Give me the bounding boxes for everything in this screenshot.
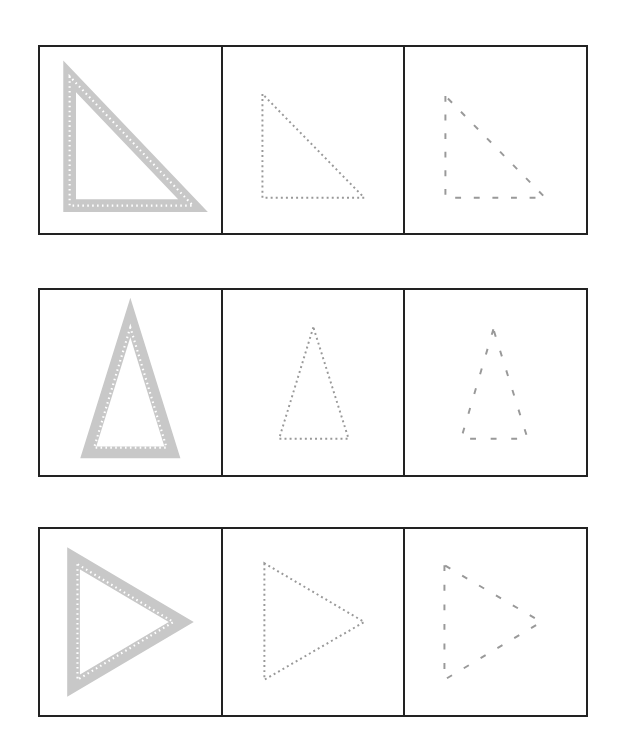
right-pointing-triangle-dashed-icon bbox=[405, 529, 586, 715]
cell-dotted bbox=[223, 47, 406, 233]
isosceles-triangle-dotted-icon bbox=[223, 290, 404, 475]
right-triangle-thick-icon bbox=[40, 47, 221, 233]
right-pointing-triangle-dotted-icon bbox=[223, 529, 404, 715]
right-pointing-triangle-thick-icon bbox=[40, 529, 221, 715]
cell-thick-outline bbox=[40, 290, 223, 475]
cell-thick-outline bbox=[40, 47, 223, 233]
worksheet-row-right-pointing-triangle bbox=[38, 527, 588, 717]
right-triangle-dashed-icon bbox=[405, 47, 586, 233]
cell-dashed bbox=[405, 529, 586, 715]
isosceles-triangle-thick-icon bbox=[40, 290, 221, 475]
right-triangle-dotted-icon bbox=[223, 47, 404, 233]
cell-dotted bbox=[223, 529, 406, 715]
worksheet-row-right-triangle bbox=[38, 45, 588, 235]
worksheet-row-isosceles-triangle bbox=[38, 288, 588, 477]
isosceles-triangle-dashed-icon bbox=[405, 290, 586, 475]
cell-dotted bbox=[223, 290, 406, 475]
cell-dashed bbox=[405, 290, 586, 475]
cell-thick-outline bbox=[40, 529, 223, 715]
cell-dashed bbox=[405, 47, 586, 233]
